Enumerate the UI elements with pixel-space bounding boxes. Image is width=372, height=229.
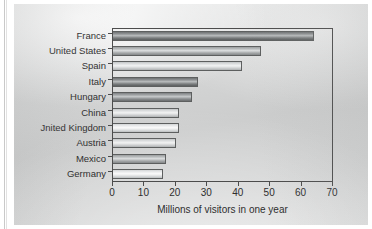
bar-row: China (112, 105, 333, 120)
x-tick-label: 40 (232, 187, 243, 199)
x-tick (301, 182, 302, 186)
category-tick (108, 33, 112, 34)
bar (113, 169, 163, 179)
x-tick-label: 0 (109, 187, 115, 199)
chart-plate: FranceUnited StatesSpainItalyHungaryChin… (14, 4, 368, 225)
category-label: United States (49, 45, 106, 56)
bar (113, 154, 166, 164)
x-tick-label: 70 (326, 187, 337, 199)
x-tick (175, 182, 176, 186)
bar (113, 46, 261, 56)
bar-row: Mexico (112, 151, 333, 166)
category-tick (108, 110, 112, 111)
category-label: Jnited Kingdom (41, 122, 106, 133)
bar (113, 138, 176, 148)
x-tick-label: 30 (201, 187, 212, 199)
bar-row: Spain (112, 59, 333, 74)
bar (113, 92, 192, 102)
plot-area: FranceUnited StatesSpainItalyHungaryChin… (112, 28, 333, 182)
x-tick-label: 10 (138, 187, 149, 199)
category-tick (108, 171, 112, 172)
bar-row: Austria (112, 136, 333, 151)
bar-row: Italy (112, 74, 333, 89)
category-tick (108, 79, 112, 80)
category-label: China (81, 107, 106, 118)
bar (113, 61, 242, 71)
bar (113, 123, 179, 133)
category-tick (108, 140, 112, 141)
category-tick (108, 48, 112, 49)
x-tick (332, 182, 333, 186)
category-tick (108, 156, 112, 157)
category-label: Mexico (76, 153, 106, 164)
x-tick (238, 182, 239, 186)
page-margin-rule (4, 0, 5, 229)
x-tick (112, 182, 113, 186)
category-label: Spain (82, 60, 106, 71)
x-tick (206, 182, 207, 186)
category-tick (108, 125, 112, 126)
bar (113, 31, 314, 41)
category-tick (108, 63, 112, 64)
x-tick (269, 182, 270, 186)
x-tick-label: 20 (169, 187, 180, 199)
x-tick-label: 60 (295, 187, 306, 199)
bar (113, 108, 179, 118)
category-label: Italy (89, 76, 106, 87)
bar-row: Jnited Kingdom (112, 120, 333, 135)
page-margin-rule-secondary (6, 0, 7, 229)
chart-figure: FranceUnited StatesSpainItalyHungaryChin… (0, 0, 372, 229)
bar-row: United States (112, 43, 333, 58)
category-label: France (76, 30, 106, 41)
x-tick (143, 182, 144, 186)
x-axis-title: Millions of visitors in one year (112, 204, 333, 215)
x-tick-label: 50 (264, 187, 275, 199)
category-tick (108, 94, 112, 95)
bar-row: Germany (112, 167, 333, 182)
bar-row: Hungary (112, 90, 333, 105)
category-label: Austria (76, 137, 106, 148)
bar-row: France (112, 28, 333, 43)
category-label: Germany (67, 168, 106, 179)
bar (113, 77, 198, 87)
category-label: Hungary (70, 91, 106, 102)
